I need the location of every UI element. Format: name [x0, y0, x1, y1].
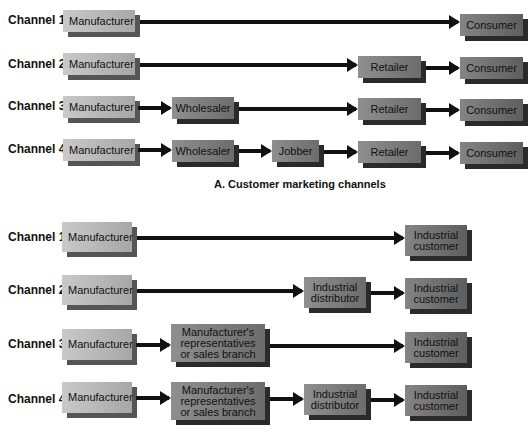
row-label-b-channel-3: Channel 3: [8, 337, 65, 351]
node-b4-industrial-distributor: Industrial distributor: [304, 384, 366, 415]
arrow-icon: [239, 107, 356, 111]
node-b4-industrial-customer: Industrial customer: [405, 385, 467, 416]
section-a-title: A. Customer marketing channels: [214, 178, 386, 190]
node-a1-consumer: Consumer: [460, 14, 523, 36]
node-b1-industrial-customer: Industrial customer: [405, 225, 467, 256]
node-b2-industrial-distributor: Industrial distributor: [304, 277, 366, 308]
node-a4-consumer: Consumer: [460, 142, 523, 164]
node-a3-manufacturer: Manufacturer: [63, 96, 135, 118]
node-a3-consumer: Consumer: [460, 99, 523, 121]
arrow-icon: [136, 343, 169, 347]
arrow-icon: [324, 150, 356, 154]
arrow-icon: [138, 148, 170, 152]
node-a2-manufacturer: Manufacturer: [63, 53, 135, 75]
arrow-icon: [239, 149, 270, 153]
arrow-icon: [137, 236, 403, 240]
node-a3-retailer: Retailer: [358, 98, 421, 120]
arrow-icon: [140, 20, 458, 24]
node-b3-industrial-customer: Industrial customer: [405, 332, 467, 363]
arrow-icon: [270, 397, 302, 401]
row-label-b-channel-2: Channel 2: [8, 283, 65, 297]
node-b3-manufacturers-representatives: Manufacturer's representatives or sales …: [171, 324, 265, 362]
node-b1-manufacturer: Manufacturer: [62, 222, 132, 252]
row-label-b-channel-1: Channel 1: [8, 230, 65, 244]
node-a2-consumer: Consumer: [460, 57, 523, 79]
node-b3-manufacturer: Manufacturer: [62, 329, 132, 360]
node-a2-retailer: Retailer: [358, 56, 421, 78]
arrow-icon: [371, 398, 403, 402]
node-a4-jobber: Jobber: [272, 140, 319, 162]
row-label-a-channel-2: Channel 2: [8, 57, 65, 71]
arrow-icon: [138, 106, 170, 110]
node-a4-retailer: Retailer: [358, 141, 421, 163]
node-a3-wholesaler: Wholesaler: [172, 97, 234, 119]
node-b2-manufacturer: Manufacturer: [62, 275, 132, 305]
node-a1-manufacturer: Manufacturer: [63, 10, 135, 32]
node-b2-industrial-customer: Industrial customer: [405, 278, 467, 309]
row-label-a-channel-4: Channel 4: [8, 142, 65, 156]
node-a4-manufacturer: Manufacturer: [63, 139, 135, 161]
arrow-icon: [426, 151, 458, 155]
node-a4-wholesaler: Wholesaler: [172, 140, 234, 162]
arrow-icon: [136, 396, 169, 400]
node-b4-manufacturers-representatives: Manufacturer's representatives or sales …: [171, 382, 265, 420]
arrow-icon: [426, 66, 458, 70]
row-label-b-channel-4: Channel 4: [8, 392, 65, 406]
arrow-icon: [137, 289, 302, 293]
arrow-icon: [426, 108, 458, 112]
row-label-a-channel-1: Channel 1: [8, 13, 65, 27]
arrow-icon: [270, 344, 403, 348]
node-b4-manufacturer: Manufacturer: [62, 382, 132, 413]
row-label-a-channel-3: Channel 3: [8, 99, 65, 113]
arrow-icon: [140, 63, 356, 67]
arrow-icon: [371, 291, 403, 295]
